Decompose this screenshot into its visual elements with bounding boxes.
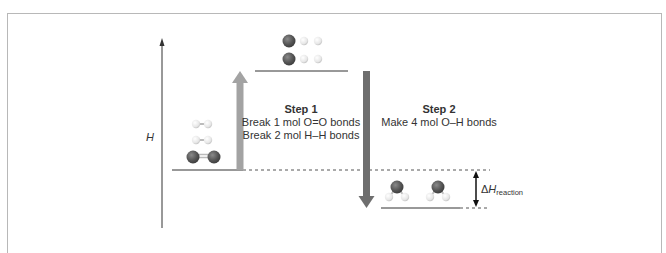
hydrogen-molecule-icon xyxy=(192,120,212,128)
step1-line1: Break 1 mol O=O bonds xyxy=(242,116,361,128)
water-molecule-icon xyxy=(426,181,450,202)
step1-heading: Step 1 xyxy=(284,103,317,115)
hydrogen-atom-icon xyxy=(314,55,322,63)
hydrogen-atom-icon xyxy=(300,37,308,45)
reactant-molecules xyxy=(187,120,221,164)
step2-heading: Step 2 xyxy=(422,103,455,115)
oxygen-atom-icon xyxy=(283,53,296,66)
enthalpy-axis xyxy=(160,38,165,228)
step1-line2: Break 2 mol H–H bonds xyxy=(243,129,360,141)
delta-h-reaction-label: ΔHreaction xyxy=(481,183,523,197)
step2-line1: Make 4 mol O–H bonds xyxy=(381,116,497,128)
hydrogen-molecule-icon xyxy=(192,136,212,144)
water-molecule-icon xyxy=(385,181,409,202)
axis-label-h: H xyxy=(146,131,154,143)
oxygen-atom-icon xyxy=(283,35,296,48)
delta-h-double-arrow-icon xyxy=(473,171,479,207)
step2-down-arrow-icon xyxy=(359,71,375,208)
hydrogen-atom-icon xyxy=(314,37,322,45)
hydrogen-atom-icon xyxy=(300,55,308,63)
product-molecules xyxy=(385,181,450,202)
separated-atoms xyxy=(283,35,323,66)
oxygen-molecule-icon xyxy=(187,151,221,164)
